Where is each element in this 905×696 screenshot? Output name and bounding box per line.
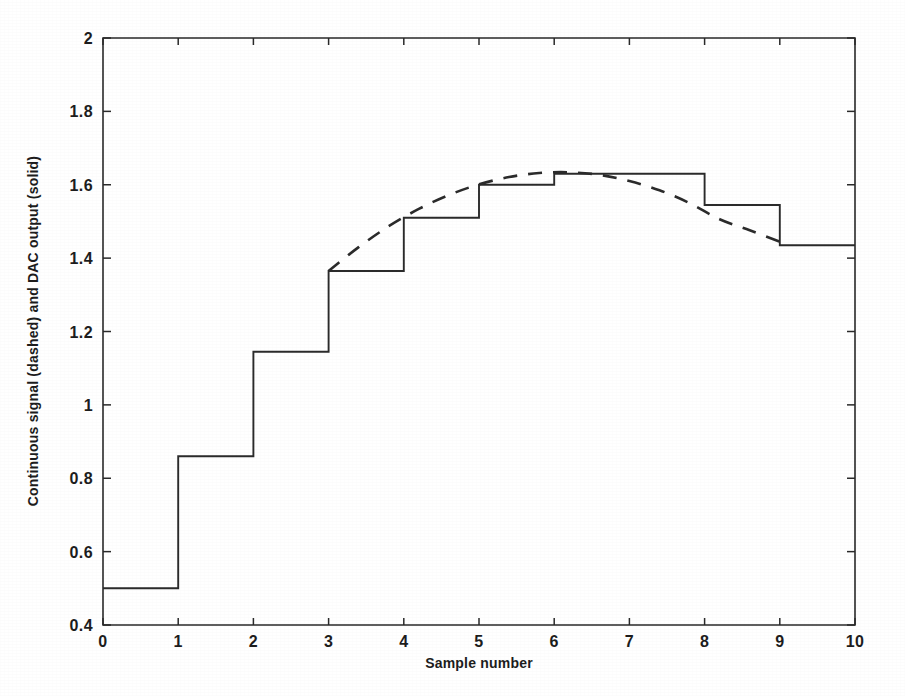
x-axis-title: Sample number (425, 655, 533, 671)
x-tick-label: 9 (775, 633, 784, 650)
y-tick-label: 2 (84, 30, 93, 47)
y-tick-label: 1.6 (70, 177, 93, 194)
y-axis-tick-labels: 0.40.60.811.21.41.61.82 (70, 30, 93, 634)
axis-frame (103, 38, 855, 625)
x-tick-label: 7 (625, 633, 634, 650)
x-tick-label: 2 (249, 633, 258, 650)
x-tick-label: 10 (846, 633, 865, 650)
x-tick-label: 1 (174, 633, 183, 650)
y-tick-label: 1.4 (70, 250, 93, 267)
x-tick-label: 4 (399, 633, 408, 650)
y-tick-label: 0.4 (70, 617, 93, 634)
y-axis-title: Continuous signal (dashed) and DAC outpu… (25, 156, 41, 506)
x-tick-label: 5 (474, 633, 483, 650)
y-tick-label: 1 (84, 397, 93, 414)
y-tick-label: 0.8 (70, 470, 93, 487)
y-tick-label: 1.2 (70, 324, 93, 341)
x-tick-label: 0 (98, 633, 107, 650)
x-tick-label: 6 (550, 633, 559, 650)
figure-canvas: 012345678910 0.40.60.811.21.41.61.82 Sam… (0, 0, 905, 696)
chart-plot: 012345678910 0.40.60.811.21.41.61.82 Sam… (0, 0, 905, 696)
y-axis-ticks (103, 38, 855, 625)
x-axis-ticks (103, 38, 855, 625)
series-continuous-signal-dashed (329, 172, 780, 271)
y-tick-label: 1.8 (70, 103, 93, 120)
x-axis-tick-labels: 012345678910 (98, 633, 864, 650)
y-tick-label: 0.6 (70, 544, 93, 561)
x-tick-label: 8 (700, 633, 709, 650)
series-dac-output-solid (103, 174, 855, 589)
x-tick-label: 3 (324, 633, 333, 650)
